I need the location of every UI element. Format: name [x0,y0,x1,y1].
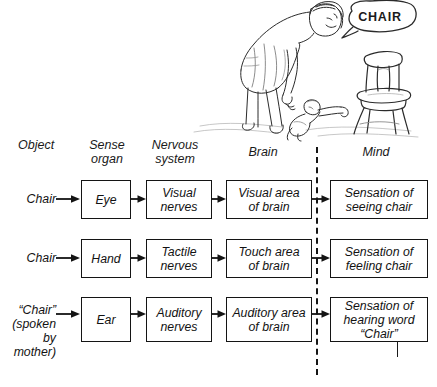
column-header-mind: Mind [322,146,430,160]
column-header-nervous-system: Nervous system [140,139,210,166]
box-sense-organ-row-2: Hand [81,239,131,278]
box-nervous-system-row-3: Auditory nerves [146,297,212,342]
box-sense-organ-row-3: Ear [81,297,131,342]
arrow-sense-to-nerves-row-3 [131,308,146,320]
arrow-brain-to-mind-row-3 [312,308,330,320]
source-label-row-2: Chair [0,251,56,265]
arrow-sense-to-nerves-row-2 [131,252,146,264]
box-nervous-system-row-2: Tactile nerves [146,239,212,278]
speech-bubble-text: CHAIR [358,10,402,24]
arrow-sense-to-nerves-row-1 [131,193,146,205]
illustration-mother-child-chair: CHAIR [186,0,437,142]
arrow-source-to-sense-row-2 [56,252,80,264]
box-brain-row-2: Touch area of brain [226,239,312,278]
source-label-row-1: Chair [0,192,56,206]
box-mind-row-1: Sensation of seeing chair [330,180,428,219]
box-nervous-system-row-1: Visual nerves [146,180,212,219]
mother-figure [241,2,343,134]
baby-figure [287,100,348,141]
arrow-source-to-sense-row-1 [56,193,80,205]
arrow-nerves-to-brain-row-3 [212,308,226,320]
diagram-canvas: CHAIR [0,0,437,387]
arrow-source-to-sense-row-3 [56,308,80,320]
column-header-brain: Brain [216,146,310,160]
column-header-object: Object [6,139,84,153]
speech-bubble: CHAIR [342,0,416,38]
arrow-nerves-to-brain-row-2 [212,252,226,264]
arrow-brain-to-mind-row-2 [312,252,330,264]
box-mind-row-3: Sensation of hearing word “Chair” [330,297,428,342]
box-mind-row-2: Sensation of feeling chair [330,239,428,278]
source-label-row-3: “Chair” (spoken by mother) [0,303,56,359]
corner-stub-line [397,341,398,357]
arrow-nerves-to-brain-row-1 [212,193,226,205]
arrow-brain-to-mind-row-1 [312,193,330,205]
chair-object [354,52,411,134]
column-header-sense-organ: Sense organ [78,139,136,166]
box-brain-row-1: Visual area of brain [226,180,312,219]
box-brain-row-3: Auditory area of brain [226,297,312,342]
box-sense-organ-row-1: Eye [81,180,131,219]
